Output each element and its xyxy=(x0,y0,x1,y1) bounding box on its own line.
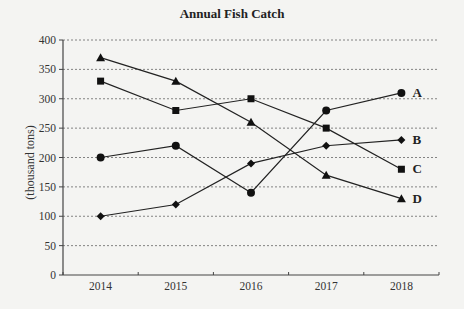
x-tick-label: 2017 xyxy=(315,280,338,292)
diamond-marker-icon xyxy=(397,136,405,144)
series-label-B: B xyxy=(412,132,421,147)
series-label-D: D xyxy=(412,191,421,206)
triangle-marker-icon xyxy=(322,171,331,179)
circle-marker-icon xyxy=(172,142,180,150)
triangle-marker-icon xyxy=(247,118,256,126)
square-marker-icon xyxy=(248,95,255,102)
y-tick-label: 300 xyxy=(39,93,57,105)
y-axis-label: (thousand tons) xyxy=(23,125,37,199)
x-tick-label: 2014 xyxy=(89,280,112,292)
x-tick-label: 2015 xyxy=(164,280,187,292)
circle-marker-icon xyxy=(247,189,255,197)
series-label-C: C xyxy=(412,161,421,176)
square-marker-icon xyxy=(97,78,104,85)
y-tick-label: 0 xyxy=(50,269,56,281)
diamond-marker-icon xyxy=(172,201,180,209)
y-tick-label: 150 xyxy=(39,181,57,193)
circle-marker-icon xyxy=(322,107,330,115)
circle-marker-icon xyxy=(97,154,105,162)
series-label-A: A xyxy=(412,85,422,100)
line-chart: 0501001502002503003504002014201520162017… xyxy=(0,0,464,309)
series-line-B xyxy=(101,140,402,216)
diamond-marker-icon xyxy=(97,212,105,220)
x-tick-label: 2018 xyxy=(390,280,413,292)
y-tick-label: 100 xyxy=(39,210,57,222)
square-marker-icon xyxy=(172,107,179,114)
y-tick-label: 250 xyxy=(39,122,57,134)
x-tick-label: 2016 xyxy=(240,280,263,292)
y-tick-label: 50 xyxy=(45,240,57,252)
y-tick-label: 200 xyxy=(39,152,57,164)
square-marker-icon xyxy=(323,125,330,132)
diamond-marker-icon xyxy=(247,159,255,167)
y-tick-label: 400 xyxy=(39,34,57,46)
square-marker-icon xyxy=(398,166,405,173)
diamond-marker-icon xyxy=(322,142,330,150)
y-tick-label: 350 xyxy=(39,63,57,75)
triangle-marker-icon xyxy=(96,53,105,61)
circle-marker-icon xyxy=(397,89,405,97)
